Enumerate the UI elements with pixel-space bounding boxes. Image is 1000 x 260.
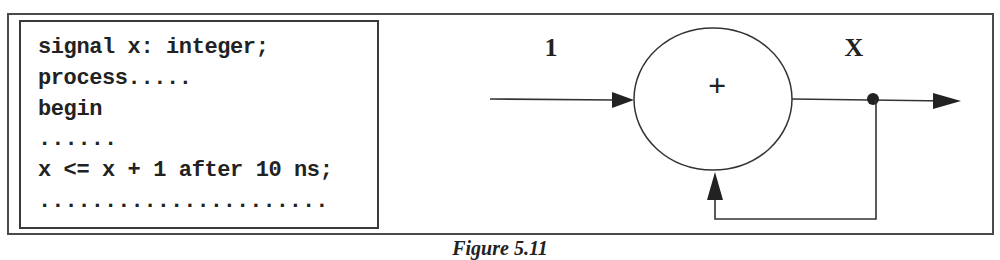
adder-plus-symbol: + <box>708 67 726 103</box>
feedback-path <box>715 100 876 219</box>
output-label: X <box>845 33 864 62</box>
input-label: 1 <box>545 33 558 62</box>
feedback-arrowhead-icon <box>707 172 723 200</box>
output-arrowhead-icon <box>933 93 961 109</box>
junction-dot <box>867 93 879 105</box>
figure-caption: Figure 5.11 <box>0 236 1000 260</box>
input-arrowhead-icon <box>612 92 634 108</box>
input-line <box>490 99 615 100</box>
